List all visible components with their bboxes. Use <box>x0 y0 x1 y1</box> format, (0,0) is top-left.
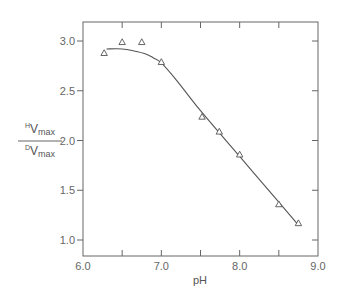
x-axis-label: pH <box>193 274 207 286</box>
y-tick-label: 2.5 <box>60 85 75 97</box>
data-point-triangle <box>119 39 125 45</box>
x-tick-label: 6.0 <box>75 260 90 272</box>
x-tick-label: 8.0 <box>232 260 247 272</box>
fitted-curve-layer <box>107 49 299 225</box>
data-point-triangle <box>276 201 282 207</box>
y-axis-label: HVmax DVmax <box>18 122 62 159</box>
data-point-triangle <box>199 113 205 119</box>
chart: 6.07.08.09.01.01.52.02.53.0 pH HVmax DVm… <box>0 0 341 301</box>
y-label-numerator: HVmax <box>25 122 56 137</box>
tick-labels: 6.07.08.09.01.01.52.02.53.0 <box>60 35 326 272</box>
fitted-curve <box>107 49 299 225</box>
data-points-layer <box>101 39 302 226</box>
axis-ticks <box>77 22 318 256</box>
y-tick-label: 1.0 <box>60 234 75 246</box>
x-tick-label: 7.0 <box>154 260 169 272</box>
x-tick-label: 9.0 <box>310 260 325 272</box>
y-tick-label: 1.5 <box>60 184 75 196</box>
data-point-triangle <box>216 128 222 134</box>
data-point-triangle <box>139 39 145 45</box>
y-label-denominator: DVmax <box>25 144 56 159</box>
data-point-triangle <box>101 50 107 56</box>
y-tick-label: 3.0 <box>60 35 75 47</box>
plot-border <box>83 22 318 256</box>
plot-frame <box>83 22 318 256</box>
